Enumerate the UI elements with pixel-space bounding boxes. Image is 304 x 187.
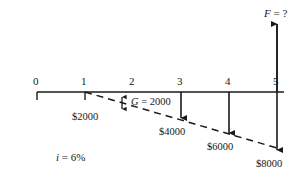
axis-tick-label-5: 5 [273, 76, 279, 87]
axis-tick-label-3: 3 [177, 76, 183, 87]
axis-tick-label-2: 2 [129, 76, 135, 87]
cash-flow-label-period-2: $2000 [72, 112, 98, 123]
interest-rate-value: 6% [71, 151, 86, 163]
cash-flow-label-period-5: $8000 [256, 159, 282, 170]
cash-flow-diagram: 0 1 2 3 4 5 G = 2000 $2000 $4000 $6000 $… [0, 0, 304, 187]
gradient-equals: = [139, 96, 150, 107]
interest-rate-equals: = [59, 151, 71, 163]
axis-tick-label-4: 4 [225, 76, 231, 87]
cash-flow-label-period-4: $6000 [207, 142, 233, 153]
axis-tick-label-1: 1 [81, 76, 87, 87]
future-value-label: F = ? [264, 8, 287, 19]
gradient-label: G = 2000 [131, 97, 171, 108]
future-value-equals: = [271, 7, 283, 19]
gradient-value: 2000 [150, 96, 171, 107]
cash-flow-label-period-3: $4000 [159, 127, 185, 138]
axis-tick-label-0: 0 [33, 76, 39, 87]
interest-rate-label: i = 6% [56, 152, 85, 163]
gradient-symbol: G [131, 96, 139, 107]
future-value-symbol: F [264, 7, 271, 19]
future-value-unknown: ? [282, 7, 287, 19]
